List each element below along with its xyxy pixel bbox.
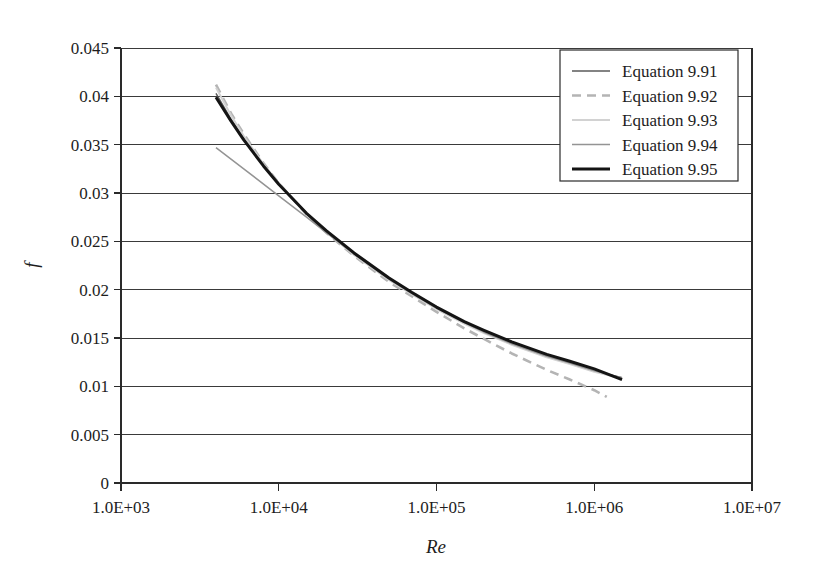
y-tick-label: 0.04	[79, 87, 109, 106]
y-tick-label: 0.015	[71, 329, 109, 348]
y-tick-label: 0	[101, 474, 110, 493]
x-tick-labels: 1.0E+031.0E+041.0E+051.0E+061.0E+07	[92, 498, 782, 517]
y-tick-label: 0.005	[71, 426, 109, 445]
y-axis-title: f	[21, 260, 42, 268]
y-tick-label: 0.025	[71, 232, 109, 251]
legend-label-5: Equation 9.95	[622, 160, 717, 179]
x-tick-label: 1.0E+06	[565, 498, 623, 517]
y-tickmarks	[114, 48, 121, 483]
x-tickmarks	[121, 483, 752, 491]
legend-label-4: Equation 9.94	[622, 136, 718, 155]
legend: Equation 9.91Equation 9.92Equation 9.93E…	[560, 50, 738, 181]
y-tick-label: 0.02	[79, 281, 109, 300]
y-tick-label: 0.03	[79, 184, 109, 203]
legend-label-2: Equation 9.92	[622, 87, 717, 106]
x-tick-label: 1.0E+05	[407, 498, 465, 517]
y-tick-label: 0.01	[79, 377, 109, 396]
chart-figure: 00.0050.010.0150.020.0250.030.0350.040.0…	[0, 0, 822, 570]
friction-factor-chart: 00.0050.010.0150.020.0250.030.0350.040.0…	[0, 0, 822, 570]
y-tick-label: 0.045	[71, 39, 109, 58]
y-tick-label: 0.035	[71, 136, 109, 155]
legend-label-1: Equation 9.91	[622, 62, 717, 81]
x-axis-title: Re	[425, 536, 446, 557]
x-tick-label: 1.0E+04	[250, 498, 309, 517]
legend-label-3: Equation 9.93	[622, 111, 717, 130]
y-tick-labels: 00.0050.010.0150.020.0250.030.0350.040.0…	[71, 39, 110, 493]
x-tick-label: 1.0E+03	[92, 498, 150, 517]
x-tick-label: 1.0E+07	[723, 498, 782, 517]
